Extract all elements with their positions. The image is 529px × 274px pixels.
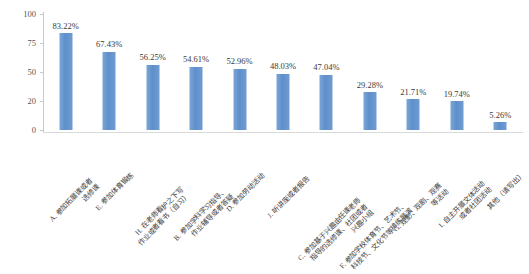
bar-group: 21.71%	[392, 14, 435, 130]
bar-value-label: 52.96%	[226, 57, 252, 66]
x-axis-category-label: E. 参加体育锻炼	[94, 171, 136, 213]
bar[interactable]	[450, 101, 463, 130]
bar-value-label: 54.61%	[183, 55, 209, 64]
bar[interactable]	[407, 99, 420, 130]
bar[interactable]	[494, 122, 507, 130]
bar-value-label: 5.26%	[489, 111, 511, 120]
y-axis-tick-label: 50	[0, 68, 36, 77]
bar-value-label: 19.74%	[444, 90, 470, 99]
x-axis-category-label: I. 自主开展文体活动或者社团活动	[437, 180, 493, 236]
bar-group: 56.25%	[131, 14, 174, 130]
bar-group: 83.22%	[44, 14, 87, 130]
bar[interactable]	[320, 75, 333, 130]
bar[interactable]	[103, 52, 116, 130]
y-axis-tick-mark	[40, 14, 43, 15]
category-label-line: E. 参加体育锻炼	[94, 171, 136, 213]
bar-value-label: 29.28%	[357, 81, 383, 90]
y-axis-tick-label: 75	[0, 39, 36, 48]
bar-value-label: 67.43%	[96, 40, 122, 49]
bar-group: 5.26%	[479, 14, 522, 130]
category-label-line: J. 听讲座或者报告	[266, 175, 311, 220]
bar-group: 47.04%	[305, 14, 348, 130]
bar-group: 19.74%	[435, 14, 478, 130]
y-axis-ticks: 1007550200	[0, 0, 40, 265]
y-axis-tick-mark	[40, 101, 43, 102]
y-axis-tick-mark	[40, 130, 43, 131]
bar[interactable]	[363, 92, 376, 130]
bar-group: 54.61%	[174, 14, 217, 130]
plot-area: 83.22%67.43%56.25%54.61%52.96%48.03%47.0…	[44, 14, 522, 130]
category-label-line: D. 参加劳动活动	[224, 172, 266, 214]
y-axis-tick-label: 20	[0, 97, 36, 106]
bar[interactable]	[59, 33, 72, 130]
bar-value-label: 21.71%	[400, 88, 426, 97]
bar[interactable]	[233, 69, 246, 130]
bar-group: 48.03%	[261, 14, 304, 130]
y-axis-tick-label: 0	[0, 126, 36, 135]
bar-value-label: 47.04%	[313, 63, 339, 72]
x-axis-category-label: D. 参加劳动活动	[224, 172, 266, 214]
y-axis-tick-mark	[40, 43, 43, 44]
y-axis-tick-mark	[40, 72, 43, 73]
x-axis-line	[43, 132, 523, 133]
bar-group: 52.96%	[218, 14, 261, 130]
bar[interactable]	[190, 67, 203, 130]
bar-group: 29.28%	[348, 14, 391, 130]
bar-group: 67.43%	[87, 14, 130, 130]
bar[interactable]	[146, 65, 159, 130]
bar[interactable]	[276, 74, 289, 130]
x-axis-category-label: J. 听讲座或者报告	[266, 175, 311, 220]
bar-value-label: 83.22%	[53, 22, 79, 31]
bar-value-label: 56.25%	[140, 53, 166, 62]
bar-value-label: 48.03%	[270, 62, 296, 71]
x-axis-category-label: A. 参加拓展课或者选修课	[48, 177, 101, 230]
y-axis-tick-label: 100	[0, 10, 36, 19]
